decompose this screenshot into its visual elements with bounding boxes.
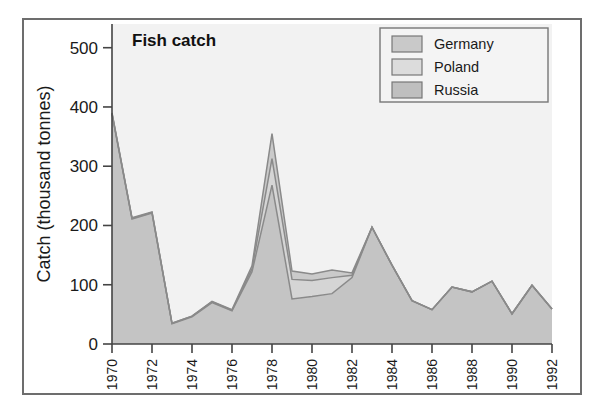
- y-axis-title: Catch (thousand tonnes): [34, 85, 54, 282]
- chart-legend: GermanyPolandRussia: [380, 28, 548, 102]
- x-tick-label: 1978: [264, 359, 280, 390]
- legend-label-poland: Poland: [434, 59, 479, 75]
- fish-catch-area-chart: 0100200300400500 19701972197419761978198…: [24, 20, 580, 393]
- figure-canvas: 0100200300400500 19701972197419761978198…: [0, 0, 604, 415]
- y-tick-label: 400: [70, 98, 98, 117]
- legend-swatch-poland: [392, 59, 422, 75]
- y-tick-label: 500: [70, 39, 98, 58]
- legend-label-germany: Germany: [434, 36, 494, 52]
- chart-outer-frame: 0100200300400500 19701972197419761978198…: [22, 18, 582, 395]
- y-tick-label: 0: [89, 335, 98, 354]
- x-tick-label: 1980: [304, 359, 320, 390]
- x-tick-label: 1986: [424, 359, 440, 390]
- y-tick-label: 300: [70, 157, 98, 176]
- x-tick-label: 1988: [464, 359, 480, 390]
- x-tick-label: 1984: [384, 359, 400, 390]
- x-tick-label: 1972: [144, 359, 160, 390]
- x-tick-label: 1976: [224, 359, 240, 390]
- legend-label-russia: Russia: [434, 82, 479, 98]
- x-tick-label: 1970: [104, 359, 120, 390]
- x-axis-ticks: 1970197219741976197819801982198419861988…: [104, 344, 560, 390]
- legend-swatch-russia: [392, 82, 422, 98]
- x-tick-label: 1990: [504, 359, 520, 390]
- legend-swatch-germany: [392, 36, 422, 52]
- x-tick-label: 1992: [544, 359, 560, 390]
- y-axis-ticks: 0100200300400500: [70, 39, 112, 354]
- x-tick-label: 1974: [184, 359, 200, 390]
- y-tick-label: 100: [70, 276, 98, 295]
- chart-title: Fish catch: [132, 31, 216, 50]
- y-tick-label: 200: [70, 216, 98, 235]
- x-tick-label: 1982: [344, 359, 360, 390]
